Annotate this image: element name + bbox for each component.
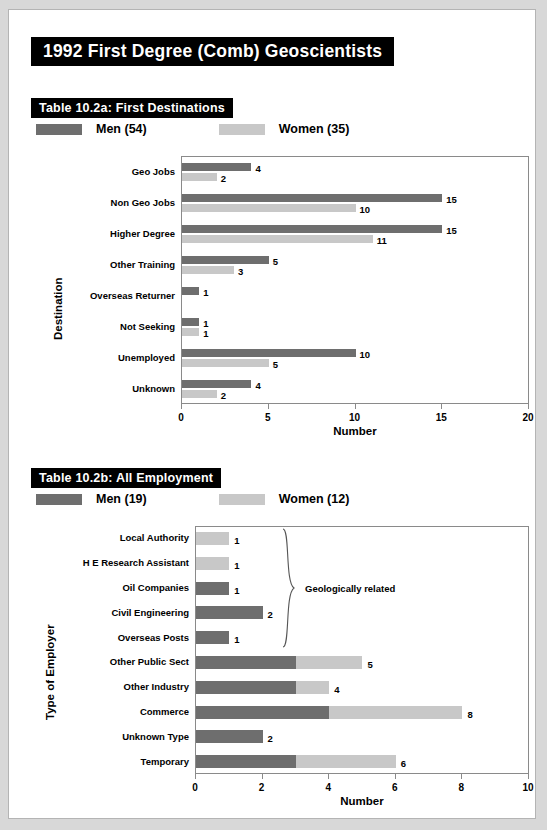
bar-value-label: 5: [368, 660, 373, 670]
bar-value-label: 1: [234, 586, 239, 596]
category-label: Civil Engineering: [35, 608, 189, 618]
x-tick: [262, 774, 263, 779]
x-tick-label: 2: [242, 783, 282, 793]
bar-value-label: 6: [401, 759, 406, 769]
bar-segment: [329, 706, 462, 719]
bar-segment: [296, 755, 396, 768]
bar-value-label: 2: [268, 734, 273, 744]
bar-value-label: 1: [234, 536, 239, 546]
poster-page: 1992 First Degree (Comb) Geoscientists T…: [8, 9, 536, 819]
bar-segment: [196, 656, 296, 669]
bar-segment: [196, 755, 296, 768]
x-tick: [461, 774, 462, 779]
chart-all-employment: Type of Employer Number 0246810Local Aut…: [9, 10, 536, 819]
category-label: Unknown Type: [35, 732, 189, 742]
bar-segment: [196, 606, 263, 619]
bar-segment: [196, 582, 229, 595]
category-label: Commerce: [35, 707, 189, 717]
bar-value-label: 1: [234, 561, 239, 571]
category-label: Other Public Sect: [35, 657, 189, 667]
bar-segment: [196, 730, 263, 743]
x-tick: [195, 774, 196, 779]
bar-segment: [196, 681, 296, 694]
bar-segment: [296, 656, 363, 669]
category-label: H E Research Assistant: [35, 558, 189, 568]
x-tick-label: 6: [375, 783, 415, 793]
bar-segment: [296, 681, 329, 694]
bar-value-label: 2: [268, 610, 273, 620]
x-axis-title-b: Number: [195, 795, 529, 807]
bar-value-label: 1: [234, 635, 239, 645]
x-tick-label: 10: [508, 783, 536, 793]
annotation-label: Geologically related: [305, 583, 395, 594]
category-label: Local Authority: [35, 533, 189, 543]
x-tick: [328, 774, 329, 779]
x-tick: [528, 774, 529, 779]
bar-value-label: 4: [334, 685, 339, 695]
x-tick-label: 8: [441, 783, 481, 793]
category-label: Other Industry: [35, 682, 189, 692]
category-label: Oil Companies: [35, 583, 189, 593]
category-label: Temporary: [35, 757, 189, 767]
bar-value-label: 8: [467, 710, 472, 720]
grouping-brace: [281, 528, 297, 648]
bar-segment: [196, 532, 229, 545]
bar-segment: [196, 557, 229, 570]
bar-segment: [196, 631, 229, 644]
bar-segment: [196, 706, 329, 719]
x-tick: [395, 774, 396, 779]
category-label: Overseas Posts: [35, 633, 189, 643]
x-tick-label: 0: [175, 783, 215, 793]
x-tick-label: 4: [308, 783, 348, 793]
